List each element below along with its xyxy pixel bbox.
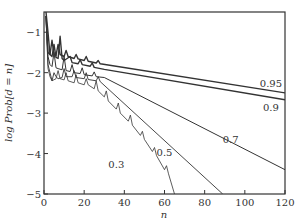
x-tick-label: 100 bbox=[235, 197, 254, 208]
y-tick-label: −4 bbox=[26, 149, 41, 160]
y-tick-label: −2 bbox=[26, 68, 41, 79]
x-tick-label: 120 bbox=[275, 197, 294, 208]
y-tick-label: −5 bbox=[26, 189, 41, 200]
line-chart: 020406080100120−1−2−3−4−5 0.950.90.70.50… bbox=[0, 0, 303, 223]
axis-ticks: 020406080100120−1−2−3−4−5 bbox=[26, 27, 294, 208]
series-label-0-7: 0.7 bbox=[223, 134, 239, 145]
series-label-0-9: 0.9 bbox=[263, 102, 279, 113]
series-line-0-95 bbox=[46, 16, 285, 93]
series-lines bbox=[46, 12, 285, 194]
y-tick-label: −3 bbox=[26, 108, 41, 119]
series-label-0-3: 0.3 bbox=[108, 159, 124, 170]
plot-frame bbox=[44, 12, 285, 194]
series-line-0-5 bbox=[46, 16, 223, 194]
series-label-0-5: 0.5 bbox=[157, 147, 173, 158]
x-tick-label: 80 bbox=[198, 197, 211, 208]
series-label-0-95: 0.95 bbox=[260, 78, 282, 89]
x-tick-label: 0 bbox=[41, 197, 47, 208]
x-tick-label: 40 bbox=[118, 197, 131, 208]
y-tick-label: −1 bbox=[26, 27, 41, 38]
x-tick-label: 60 bbox=[158, 197, 171, 208]
x-tick-label: 20 bbox=[78, 197, 91, 208]
y-axis-label: log Prob[d = n] bbox=[3, 64, 14, 142]
x-axis-label: n bbox=[161, 209, 167, 220]
